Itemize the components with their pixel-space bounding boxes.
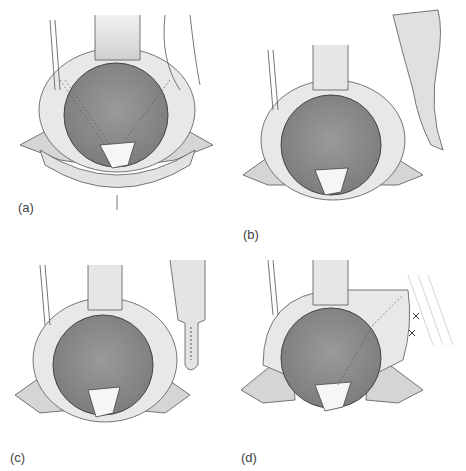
pelvis-illustration-b xyxy=(233,0,466,235)
panel-a: (a) xyxy=(0,0,233,235)
panel-label-c: (c) xyxy=(10,450,25,465)
pelvis-illustration-c xyxy=(0,235,233,471)
panel-label-d: (d) xyxy=(241,450,257,465)
panel-b: (b) xyxy=(233,0,466,235)
pelvis-illustration-a xyxy=(0,0,233,235)
pelvis-illustration-d xyxy=(233,235,466,471)
panel-label-a: (a) xyxy=(18,200,34,215)
panel-d: (d) xyxy=(233,235,466,470)
panel-c: (c) xyxy=(0,235,233,470)
